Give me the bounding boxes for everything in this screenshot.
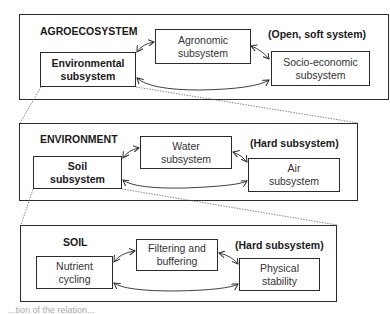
agronomic-subsystem-box: Agronomic subsystem: [155, 29, 251, 64]
agroecosystem-tag: (Open, soft system): [268, 28, 366, 40]
soil-title: SOIL: [63, 236, 88, 248]
air-subsystem-box: Air subsystem: [248, 158, 340, 192]
filtering-buffering-box: Filtering and buffering: [136, 239, 218, 271]
agronomic-subsystem-label: Agronomic subsystem: [178, 34, 228, 60]
environment-tag: (Hard subsystem): [250, 137, 339, 149]
soil-tag: (Hard subsystem): [235, 239, 324, 251]
soil-subsystem-label: Soil subsystem: [50, 160, 105, 186]
nutrient-cycling-box: Nutrient cycling: [36, 256, 113, 289]
water-subsystem-label: Water subsystem: [161, 140, 211, 166]
figure-caption-cropped: ...tion of the relation...: [8, 305, 95, 314]
agroecosystem-title: AGROECOSYSTEM: [40, 25, 137, 37]
environment-title: ENVIRONMENT: [40, 133, 118, 145]
socio-economic-subsystem-box: Socio-economic subsystem: [271, 51, 370, 86]
environmental-subsystem-box: Environmental subsystem: [40, 52, 136, 87]
soil-subsystem-box: Soil subsystem: [33, 156, 122, 189]
filtering-buffering-label: Filtering and buffering: [148, 242, 206, 268]
environmental-subsystem-label: Environmental subsystem: [52, 57, 125, 83]
air-subsystem-label: Air subsystem: [269, 162, 319, 188]
socio-economic-subsystem-label: Socio-economic subsystem: [283, 56, 358, 82]
physical-stability-box: Physical stability: [239, 258, 320, 291]
nutrient-cycling-label: Nutrient cycling: [56, 260, 93, 286]
water-subsystem-box: Water subsystem: [140, 136, 232, 169]
physical-stability-label: Physical stability: [260, 262, 299, 288]
